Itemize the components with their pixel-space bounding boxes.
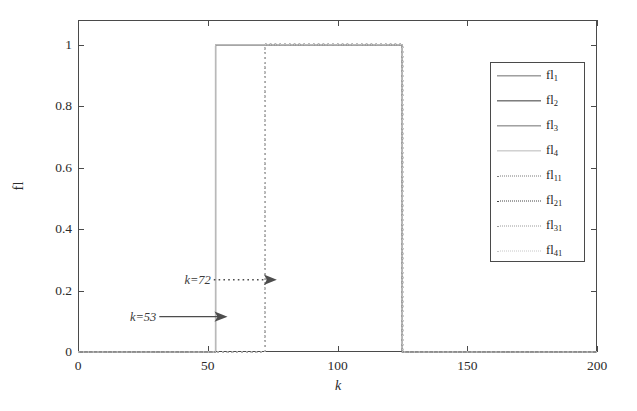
legend-line-sample xyxy=(497,220,541,232)
legend-item-fl11[interactable]: fl11 xyxy=(491,163,584,188)
legend-label-base: fl xyxy=(546,118,554,132)
legend-item-label: fl21 xyxy=(546,193,562,208)
legend: fl1fl2fl3fl4fl11fl21fl31fl41 xyxy=(490,62,585,262)
legend-item-label: fl31 xyxy=(546,218,562,233)
legend-label-base: fl xyxy=(546,68,554,82)
legend-item-fl31[interactable]: fl31 xyxy=(491,213,584,238)
legend-item-label: fl11 xyxy=(546,168,562,183)
legend-line-sample xyxy=(497,245,541,257)
legend-item-fl21[interactable]: fl21 xyxy=(491,188,584,213)
legend-line-sample xyxy=(497,95,541,107)
legend-label-base: fl xyxy=(546,218,554,232)
legend-item-fl3[interactable]: fl3 xyxy=(491,113,584,138)
legend-item-label: fl41 xyxy=(546,243,562,258)
legend-label-subscript: 2 xyxy=(554,98,558,108)
legend-item-label: fl3 xyxy=(546,118,558,133)
legend-item-label: fl1 xyxy=(546,68,558,83)
legend-line-sample xyxy=(497,120,541,132)
legend-label-subscript: 31 xyxy=(554,223,563,233)
legend-label-base: fl xyxy=(546,193,554,207)
legend-label-base: fl xyxy=(546,143,554,157)
x-axis-title: k xyxy=(335,378,341,394)
legend-line-sample xyxy=(497,70,541,82)
legend-label-base: fl xyxy=(546,93,554,107)
legend-item-label: fl4 xyxy=(546,143,558,158)
legend-line-sample xyxy=(497,145,541,157)
legend-label-base: fl xyxy=(546,168,554,182)
legend-label-subscript: 21 xyxy=(554,198,563,208)
legend-label-subscript: 1 xyxy=(554,73,558,83)
legend-label-subscript: 11 xyxy=(554,173,562,183)
legend-label-subscript: 41 xyxy=(554,248,563,258)
y-axis-title: fl xyxy=(10,182,27,191)
legend-line-sample xyxy=(497,195,541,207)
legend-label-subscript: 4 xyxy=(554,148,558,158)
legend-label-base: fl xyxy=(546,243,554,257)
legend-label-subscript: 3 xyxy=(554,123,558,133)
legend-item-label: fl2 xyxy=(546,93,558,108)
legend-item-fl4[interactable]: fl4 xyxy=(491,138,584,163)
legend-item-fl1[interactable]: fl1 xyxy=(491,63,584,88)
legend-item-fl2[interactable]: fl2 xyxy=(491,88,584,113)
legend-item-fl41[interactable]: fl41 xyxy=(491,238,584,263)
figure-canvas: 05010015020000.20.40.60.81 k=53k=72 k fl… xyxy=(0,0,637,411)
legend-line-sample xyxy=(497,170,541,182)
